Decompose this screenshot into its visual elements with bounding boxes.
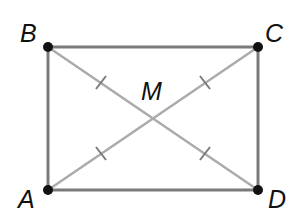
tick-am bbox=[96, 147, 106, 160]
point-a bbox=[43, 185, 53, 195]
point-c bbox=[253, 42, 263, 52]
label-m: M bbox=[141, 77, 162, 105]
label-a: A bbox=[16, 185, 35, 213]
point-b bbox=[43, 42, 53, 52]
tick-md bbox=[200, 147, 210, 160]
rectangle-diagram: B C A D M bbox=[0, 0, 307, 216]
label-b: B bbox=[20, 19, 37, 47]
point-d bbox=[253, 185, 263, 195]
label-c: C bbox=[265, 19, 284, 47]
tick-mc bbox=[200, 76, 210, 89]
label-d: D bbox=[268, 185, 286, 213]
tick-bm bbox=[96, 76, 106, 89]
